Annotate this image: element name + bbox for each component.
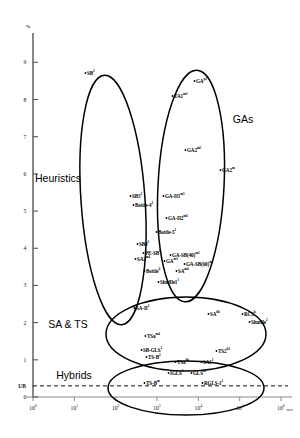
y-tick-label: 5 bbox=[24, 208, 27, 214]
y-tick-label: 4 bbox=[24, 245, 27, 251]
cluster-label-gas: GAs bbox=[233, 113, 253, 125]
x-tick-label: 105 bbox=[236, 405, 244, 411]
x-tick-label: 100 bbox=[29, 405, 37, 411]
y-axis-ticks bbox=[33, 62, 38, 397]
x-tick-label: 106 bbox=[277, 405, 285, 411]
y-tick-label: 7 bbox=[24, 134, 27, 140]
x-axis-unit: sec bbox=[287, 407, 293, 412]
x-tick-label: 103 bbox=[153, 405, 161, 411]
y-tick-label: 2 bbox=[24, 320, 27, 326]
y-tick-label: 9 bbox=[24, 59, 27, 65]
scatter-plot-canvas bbox=[0, 0, 300, 438]
x-tick-label: 101 bbox=[71, 405, 79, 411]
x-tick-label: 104 bbox=[195, 405, 203, 411]
y-tick-label: 1 bbox=[24, 357, 27, 363]
upper-bound-label: UB bbox=[18, 383, 26, 389]
cluster-label-heuristics: Heuristics bbox=[35, 172, 81, 184]
y-tick-label: 8 bbox=[24, 97, 27, 103]
y-tick-label: 3 bbox=[24, 282, 27, 288]
y-tick-label: 6 bbox=[24, 171, 27, 177]
cluster-label-sa-ts: SA & TS bbox=[48, 318, 88, 330]
axis-lines bbox=[26, 33, 292, 398]
x-tick-label: 102 bbox=[112, 405, 120, 411]
y-axis-unit: % bbox=[26, 24, 31, 29]
cluster-label-hybrids: Hybrids bbox=[56, 369, 92, 381]
y-tick-label: 0 bbox=[24, 394, 27, 400]
